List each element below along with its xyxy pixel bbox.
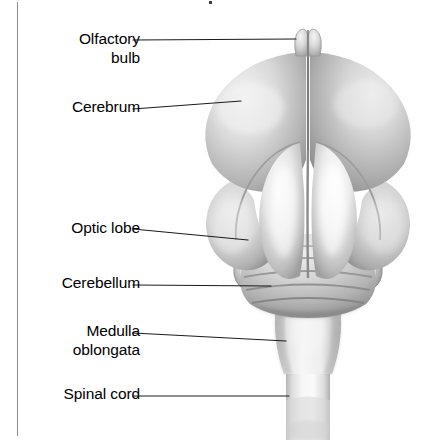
label-olfactory-bulb: Olfactory bulb xyxy=(0,30,140,67)
structure-olfactory-bulb xyxy=(295,29,322,56)
label-optic-lobe: Optic lobe xyxy=(0,219,140,238)
label-cerebrum: Cerebrum xyxy=(0,98,140,117)
leader-line-medulla-oblongata xyxy=(133,333,286,341)
label-medulla-oblongata: Medulla oblongata xyxy=(0,322,140,359)
label-cerebellum: Cerebellum xyxy=(0,274,140,293)
leader-line-olfactory-bulb xyxy=(133,39,296,40)
label-spinal-cord: Spinal cord xyxy=(0,385,140,404)
structure-cerebrum xyxy=(205,52,410,279)
